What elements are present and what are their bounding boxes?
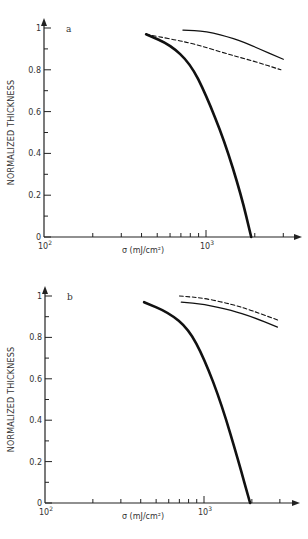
y-tick-label: 1 — [36, 24, 41, 33]
panel-label: a — [66, 24, 72, 34]
y-tick-label: 0.8 — [29, 333, 42, 342]
y-tick-label: 1 — [37, 292, 42, 301]
x-tick-label: 103 — [198, 505, 212, 517]
chart-panel-b: 00.20.40.60.81102103σ (mJ/cm²)NORMALIZED… — [7, 286, 300, 521]
series-solid-thick — [146, 34, 251, 237]
y-tick-label: 0.2 — [28, 191, 41, 200]
y-axis-arrow-icon — [42, 286, 48, 294]
panel-label: b — [67, 292, 73, 302]
figure: 00.20.40.60.81102103σ (mJ/cm²)NORMALIZED… — [0, 0, 308, 539]
series-solid-thick — [144, 302, 250, 503]
y-axis-label: NORMALIZED THICKNESS — [7, 80, 16, 186]
chart-panel-a: 00.20.40.60.81102103σ (mJ/cm²)NORMALIZED… — [7, 18, 302, 255]
y-tick-label: 0.6 — [29, 375, 42, 384]
x-axis-label: σ (mJ/cm²) — [122, 246, 164, 255]
y-axis-arrow-icon — [41, 18, 47, 26]
y-tick-label: 0.4 — [29, 416, 42, 425]
x-axis-label: σ (mJ/cm²) — [122, 512, 164, 521]
y-tick-label: 0.8 — [28, 66, 41, 75]
series-dashed — [146, 34, 281, 70]
x-axis-arrow-icon — [292, 500, 300, 506]
y-tick-label: 0.6 — [28, 108, 41, 117]
x-axis-arrow-icon — [294, 234, 302, 240]
y-tick-label: 0.2 — [29, 458, 42, 467]
y-tick-label: 0.4 — [28, 149, 41, 158]
x-tick-label: 103 — [200, 239, 214, 251]
y-axis-label: NORMALIZED THICKNESS — [7, 347, 16, 453]
y-tick-label: 0 — [36, 233, 41, 242]
y-tick-label: 0 — [37, 499, 42, 508]
series-dashed — [179, 296, 280, 321]
